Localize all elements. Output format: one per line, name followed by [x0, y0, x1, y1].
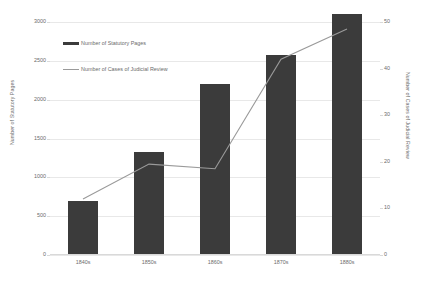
x-axis-tick-label: 1870s	[261, 259, 301, 265]
y-axis-left-tick-label: 3000	[34, 19, 46, 24]
x-axis-line	[50, 254, 380, 255]
y-axis-right-tick-label: 0	[384, 252, 387, 257]
y-axis-left-tick-label: 500	[37, 213, 46, 218]
y-axis-right-tick-label: 40	[384, 66, 390, 71]
tick-mark-right	[380, 255, 383, 256]
y-axis-left-tick-label: 2500	[34, 58, 46, 63]
legend-item-statutory-pages: Number of Statutory Pages	[63, 40, 146, 48]
tick-mark-right	[380, 22, 383, 23]
tick-mark-left	[47, 255, 50, 256]
y-axis-left-tick-label: 1500	[34, 136, 46, 141]
x-axis-tick-label: 1850s	[129, 259, 169, 265]
x-axis-labels: 1840s1850s1860s1870s1880s	[50, 259, 380, 273]
y-axis-right-tick-label: 20	[384, 159, 390, 164]
x-axis-tick-label: 1840s	[63, 259, 103, 265]
legend-label-statutory-pages: Number of Statutory Pages	[81, 40, 146, 48]
y-axis-right-ticks: 01020304050	[380, 0, 410, 284]
x-axis-tick-label: 1880s	[327, 259, 367, 265]
x-axis-tick-label: 1860s	[195, 259, 235, 265]
judicial-review-line	[83, 29, 347, 199]
y-axis-left-tick-label: 2000	[34, 97, 46, 102]
legend-bar-swatch-icon	[63, 42, 79, 46]
y-axis-left-ticks: 050010001500200025003000	[18, 0, 48, 284]
y-axis-right-tick-label: 30	[384, 112, 390, 117]
y-axis-left-title: Number of Statutory Pages	[9, 80, 15, 145]
y-axis-right-tick-label: 50	[384, 19, 390, 24]
legend-item-judicial-review: Number of Cases of Judicial Review	[63, 66, 168, 74]
y-axis-right-tick-label: 10	[384, 205, 390, 210]
y-axis-left-tick-label: 0	[43, 252, 46, 257]
tick-mark-right	[380, 115, 383, 116]
tick-mark-right	[380, 69, 383, 70]
combo-chart: Number of Statutory Pages Number of Case…	[0, 0, 422, 284]
plot-area	[50, 22, 380, 255]
legend-label-judicial-review: Number of Cases of Judicial Review	[81, 66, 168, 74]
gridline	[50, 255, 380, 256]
line-series-layer	[50, 22, 380, 255]
tick-mark-right	[380, 208, 383, 209]
tick-mark-right	[380, 162, 383, 163]
y-axis-left-tick-label: 1000	[34, 174, 46, 179]
legend-line-swatch-icon	[63, 68, 79, 72]
